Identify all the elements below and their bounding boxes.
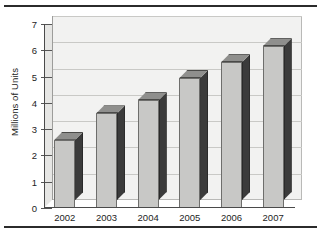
x-axis-label-2002: 2002 [44,212,86,223]
bar-side-face [159,92,167,200]
bar-side-face [242,54,250,200]
bar-front-face [138,100,159,208]
plot-left-wall [44,24,52,208]
bar-front-face [96,113,117,208]
y-tick: 7 [41,24,52,25]
bar-2007 [263,46,284,208]
gridline [52,42,302,43]
bottom-divider-rule [4,226,317,228]
bar-chart-figure: Millions of Units 01234567 2002200320042… [0,0,321,237]
bar-front-face [221,62,242,208]
bar-2005 [179,78,200,208]
y-axis-back-edge [52,16,53,200]
x-axis-label-2005: 2005 [169,212,211,223]
y-tick: 1 [41,182,52,183]
bar-2004 [138,100,159,208]
y-tick: 5 [41,77,52,78]
y-tick-label: 4 [32,99,37,109]
y-tick: 4 [41,103,52,104]
y-tick-label: 3 [32,125,37,135]
y-tick-label: 5 [32,73,37,83]
bar-2003 [96,113,117,208]
x-axis-line [44,207,295,208]
y-tick-label: 1 [32,178,37,188]
plot-area: 01234567 200220032004200520062007 [44,16,302,208]
y-axis-line [44,24,45,208]
y-tick-label: 7 [32,20,37,30]
x-axis-label-2003: 2003 [86,212,128,223]
x-axis-label-2007: 2007 [252,212,294,223]
y-tick: 3 [41,129,52,130]
y-tick: 2 [41,155,52,156]
bar-side-face [200,70,208,200]
bar-2006 [221,62,242,208]
top-divider-rule [4,5,317,7]
bar-front-face [179,78,200,208]
bar-side-face [284,38,292,200]
y-axis-title: Millions of Units [9,54,21,150]
y-tick-label: 2 [32,151,37,161]
y-tick-label: 0 [32,204,37,214]
x-axis-label-2004: 2004 [127,212,169,223]
gridline [52,16,302,17]
y-tick: 6 [41,50,52,51]
y-tick-label: 6 [32,46,37,56]
bar-front-face [263,46,284,208]
y-tick: 0 [41,208,52,209]
bar-side-face [75,132,83,200]
bar-front-face [54,140,75,208]
bar-side-face [117,105,125,200]
bar-2002 [54,140,75,208]
x-axis-label-2006: 2006 [211,212,253,223]
